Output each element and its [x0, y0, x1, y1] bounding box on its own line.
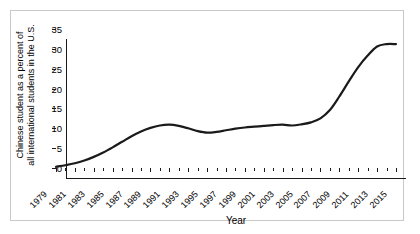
- x-axis-tick-label: 2011: [330, 189, 351, 210]
- x-axis-tick-label: 1997: [198, 189, 219, 210]
- x-axis-tick-mark-minor: [387, 168, 388, 171]
- y-axis-tick-mark: [52, 69, 56, 70]
- x-axis-line: [66, 178, 406, 179]
- y-axis-tick-mark: [52, 89, 56, 90]
- x-axis-tick-label: 2013: [349, 189, 370, 210]
- x-axis-tick-mark-major: [358, 168, 359, 172]
- y-axis-tick-label: 5: [57, 143, 62, 154]
- y-axis-tick-mark: [52, 49, 56, 50]
- x-axis-tick-mark-major: [396, 168, 397, 172]
- x-axis-tick-mark-major: [207, 168, 208, 172]
- x-axis-tick-label: 1995: [179, 189, 200, 210]
- x-axis-tick-mark-minor: [122, 168, 123, 171]
- x-axis-tick-mark-minor: [254, 168, 255, 171]
- y-axis-tick-mark: [52, 29, 56, 30]
- x-axis-tick-mark-major: [377, 168, 378, 172]
- y-axis-tick-label: 0: [57, 163, 62, 174]
- chart-figure: Chinese student as a percent of all inte…: [10, 10, 404, 221]
- x-axis-tick-label: 1989: [122, 189, 143, 210]
- x-axis-tick-mark-minor: [141, 168, 142, 171]
- y-axis-line: [66, 39, 67, 178]
- x-axis-tick-mark-major: [226, 168, 227, 172]
- x-axis-tick-mark-minor: [273, 168, 274, 171]
- x-axis-tick-mark-minor: [235, 168, 236, 171]
- x-axis-tick-label: 1983: [65, 189, 86, 210]
- x-axis-tick-mark-minor: [198, 168, 199, 171]
- x-axis-tick-label: 1993: [160, 189, 181, 210]
- x-axis-tick-mark-major: [245, 168, 246, 172]
- x-axis-tick-mark-major: [113, 168, 114, 172]
- x-axis-tick-mark-minor: [292, 168, 293, 171]
- x-axis-tick-mark-major: [320, 168, 321, 172]
- x-axis-tick-mark-minor: [65, 168, 66, 171]
- x-axis-tick-label: 1987: [103, 189, 124, 210]
- x-axis-tick-mark-minor: [368, 168, 369, 171]
- x-axis-tick-label: 2003: [254, 189, 275, 210]
- y-axis-title: Chinese student as a percent of all inte…: [15, 0, 41, 201]
- x-axis-tick-label: 1991: [141, 189, 162, 210]
- x-axis-tick-label: 1985: [84, 189, 105, 210]
- x-axis-tick-mark-major: [283, 168, 284, 172]
- x-axis-tick-mark-major: [188, 168, 189, 172]
- x-axis-tick-mark-major: [264, 168, 265, 172]
- y-axis-title-line-2: all international students in the U.S.: [26, 24, 37, 166]
- x-axis-tick-mark-minor: [311, 168, 312, 171]
- x-axis-tick-label: 2009: [311, 189, 332, 210]
- x-axis-tick-label: 1999: [217, 189, 238, 210]
- x-axis-tick-mark-minor: [349, 168, 350, 171]
- y-axis-tick-mark: [52, 108, 56, 109]
- x-axis-tick-mark-minor: [84, 168, 85, 171]
- x-axis-tick-mark-major: [339, 168, 340, 172]
- x-axis-tick-mark-minor: [179, 168, 180, 171]
- y-axis-tick-mark: [52, 128, 56, 129]
- x-axis-tick-mark-major: [169, 168, 170, 172]
- x-axis-tick-mark-minor: [330, 168, 331, 171]
- x-axis-tick-mark-major: [56, 168, 57, 172]
- x-axis-tick-mark-major: [75, 168, 76, 172]
- y-axis-tick-mark: [52, 148, 56, 149]
- y-axis-title-line-1: Chinese student as a percent of: [15, 31, 26, 158]
- x-axis-title: Year: [66, 215, 406, 226]
- x-axis-tick-mark-minor: [103, 168, 104, 171]
- x-axis-tick-mark-major: [132, 168, 133, 172]
- x-axis-tick-mark-major: [302, 168, 303, 172]
- x-axis-tick-mark-major: [94, 168, 95, 172]
- x-axis-tick-label: 2007: [292, 189, 313, 210]
- x-axis-tick-label: 2015: [368, 189, 389, 210]
- x-axis-tick-mark-minor: [160, 168, 161, 171]
- x-axis-tick-mark-major: [150, 168, 151, 172]
- x-axis-tick-mark-minor: [217, 168, 218, 171]
- x-axis-tick-label: 2001: [235, 189, 256, 210]
- x-axis-tick-label: 2005: [273, 189, 294, 210]
